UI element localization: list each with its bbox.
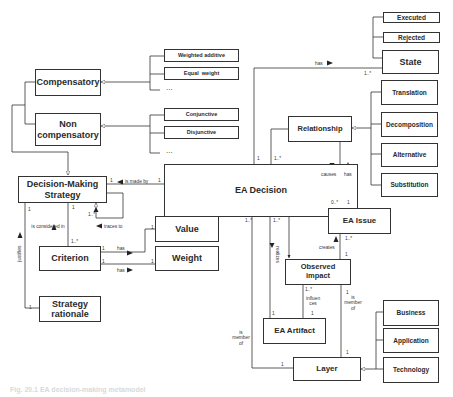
class-label: Weighted additive [178, 52, 225, 58]
label-realizes: realizes [275, 246, 280, 263]
mult-issue-impact: 1..* [345, 236, 352, 241]
class-label: EA Issue [343, 216, 377, 225]
mult-relationship-issue: 1 [347, 200, 350, 205]
class-criterion[interactable]: Criterion [39, 246, 101, 271]
class-state[interactable]: State [382, 50, 439, 74]
class-decision-making-strategy[interactable]: Decision-Making Strategy [18, 176, 107, 203]
class-weighted-additive[interactable]: Weighted additive [164, 49, 239, 62]
has-value-arrow-icon [127, 251, 133, 256]
class-alternative[interactable]: Alternative [381, 143, 438, 167]
class-label: Compensatory [36, 77, 99, 87]
label-justifies: justifies [17, 246, 22, 262]
label-creates: creates [319, 245, 335, 250]
label-causes: causes [321, 172, 336, 177]
class-label: Strategy rationale [46, 299, 94, 320]
mult-impact-layer: 1 [346, 290, 349, 295]
mult-traces-loop: 1..* [88, 212, 95, 217]
class-label: Relationship [297, 125, 342, 134]
label-is-considered-in: is considered in [30, 224, 66, 229]
class-label: Conjunctive [186, 111, 217, 117]
mult-decision-layer: 1..* [245, 218, 252, 223]
class-disjunctive[interactable]: Disjunctive [164, 126, 239, 139]
class-label: Weight [172, 253, 202, 263]
class-label: Rejected [398, 34, 425, 41]
label-is-member-of-impact: is member of [343, 295, 363, 311]
class-label: Business [397, 309, 426, 316]
class-label: Observed impact [294, 263, 342, 280]
mult-impact-artifact: 1..* [305, 287, 312, 292]
label-has-value: has [117, 246, 125, 251]
class-label: Criterion [51, 253, 89, 263]
traces-to-arrow-icon [96, 224, 102, 229]
mult-state: 1..* [364, 71, 371, 76]
class-decomposition[interactable]: Decomposition [381, 112, 438, 137]
class-translation[interactable]: Translation [381, 80, 438, 105]
class-equal-weight[interactable]: Equal weight [164, 67, 239, 80]
class-observed-impact[interactable]: Observed impact [285, 259, 351, 285]
class-strategy-rationale[interactable]: Strategy rationale [39, 296, 101, 322]
mult-artifact: 1 [272, 311, 275, 316]
class-label: Substitution [391, 181, 429, 188]
class-label: State [399, 57, 421, 67]
class-label: Decision-Making Strategy [23, 179, 102, 200]
mult-decision-made-by: 1 [158, 178, 161, 183]
mult-relationship-decision: 1..* [274, 156, 281, 161]
creates-arrow-icon [334, 236, 339, 242]
class-ea-issue[interactable]: EA Issue [328, 208, 391, 234]
label-is-made-by: is made by [125, 179, 148, 184]
class-rejected[interactable]: Rejected [383, 32, 440, 43]
class-value[interactable]: Value [155, 216, 219, 242]
class-substitution[interactable]: Substitution [381, 173, 438, 197]
ellipsis-non-compensatory: ... [166, 146, 173, 155]
class-label: Equal weight [184, 70, 219, 76]
class-label: Application [393, 337, 428, 344]
class-label: Value [175, 224, 199, 234]
class-conjunctive[interactable]: Conjunctive [164, 108, 239, 121]
class-technology[interactable]: Technology [383, 357, 439, 383]
mult-rationale: 1 [29, 305, 32, 310]
class-weight[interactable]: Weight [155, 246, 219, 271]
mult-layer-impact: 1 [346, 350, 349, 355]
label-has-weight: has [117, 268, 125, 273]
class-label: EA Decision [235, 185, 287, 195]
mult-weight: 1 [151, 259, 154, 264]
label-traces-to: traces to [104, 224, 122, 229]
mult-criterion-value: 1 [102, 246, 105, 251]
class-label: Executed [397, 14, 426, 21]
class-business[interactable]: Business [383, 300, 439, 326]
class-label: Alternative [393, 151, 427, 158]
label-has-state: has [315, 61, 323, 66]
has-state-arrow-icon [327, 61, 333, 66]
class-label: EA Artifact [274, 326, 315, 335]
class-label: Non compensatory [37, 119, 99, 140]
figure-caption: Fig. 20.1 EA decision-making metamodel [10, 386, 146, 393]
mult-dms-criterion: 1 [72, 205, 75, 210]
mult-criterion-weight: 1 [102, 259, 105, 264]
mult-artifact-impact: 1 [311, 311, 314, 316]
class-label: Layer [316, 364, 337, 373]
mult-decision-relationship: 1 [257, 156, 260, 161]
class-executed[interactable]: Executed [383, 12, 440, 23]
mult-layer-decision: 1 [281, 362, 284, 367]
class-ea-artifact[interactable]: EA Artifact [263, 318, 326, 344]
mult-decision-artifact: 1..* [273, 218, 280, 223]
class-layer[interactable]: Layer [293, 357, 361, 381]
mult-dms-rationale: 1 [28, 207, 31, 212]
class-application[interactable]: Application [383, 328, 439, 353]
class-label: Disjunctive [187, 129, 216, 135]
label-has-issue: has [344, 172, 352, 177]
mult-criterion-dms: 1..* [71, 239, 78, 244]
justifies-arrow-icon [18, 232, 23, 238]
mult-value: 1 [151, 225, 154, 230]
mult-dms-made-by: 1 [110, 178, 113, 183]
class-label: Translation [392, 89, 427, 96]
class-label: Technology [393, 366, 429, 373]
class-compensatory[interactable]: Compensatory [35, 69, 101, 96]
has-weight-arrow-icon [127, 268, 133, 273]
mult-impact-issue: 1 [345, 252, 348, 257]
label-influences: influen ces [305, 296, 321, 307]
mult-issue-relationship: 0..* [331, 200, 338, 205]
class-non-compensatory[interactable]: Non compensatory [35, 113, 101, 146]
class-relationship[interactable]: Relationship [288, 116, 352, 142]
label-is-member-of-decision: is member of [231, 330, 251, 346]
